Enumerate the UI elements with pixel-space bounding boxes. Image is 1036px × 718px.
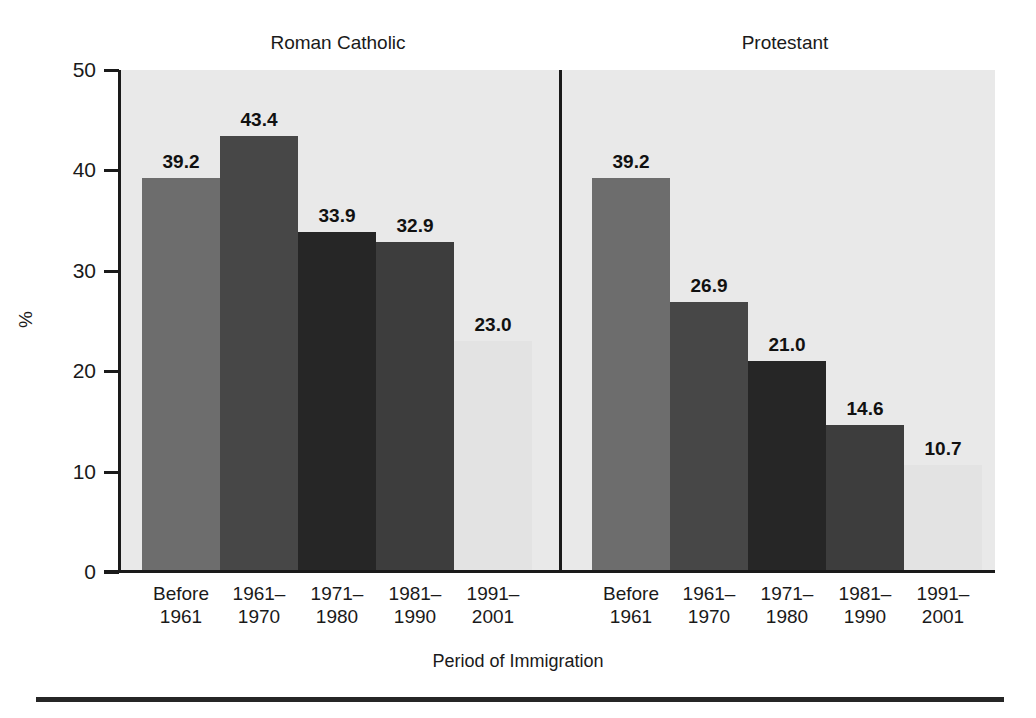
y-axis-tick-label: 50 [34, 59, 96, 80]
panel-title-protestant: Protestant [665, 33, 905, 52]
bar [142, 178, 220, 572]
y-axis-tick [104, 571, 119, 574]
y-axis-tick-label: 10 [34, 461, 96, 482]
bar-value-label: 39.2 [584, 152, 678, 171]
plot-area [121, 70, 995, 572]
panel-protestant [560, 70, 995, 572]
bar-value-label: 14.6 [818, 399, 912, 418]
x-axis-tick-label: 1971– 1980 [742, 582, 832, 628]
bar [592, 178, 670, 572]
bar [298, 232, 376, 572]
y-axis-tick [104, 471, 119, 474]
y-axis-tick-label-wrap: 30 [20, 260, 96, 281]
y-axis-tick-label-wrap: 50 [20, 59, 96, 80]
x-axis-tick-label: 1971– 1980 [292, 582, 382, 628]
bar-value-label: 23.0 [446, 315, 540, 334]
y-axis-tick [104, 69, 119, 72]
y-axis-line [118, 70, 121, 573]
y-axis-tick [104, 370, 119, 373]
y-axis-tick-label: 20 [34, 360, 96, 381]
bar [826, 425, 904, 572]
x-axis-tick-label: 1991– 2001 [898, 582, 988, 628]
bar [454, 341, 532, 572]
y-axis-tick [104, 169, 119, 172]
bar-value-label: 39.2 [134, 152, 228, 171]
x-axis-tick-label: 1981– 1990 [370, 582, 460, 628]
bottom-rule [36, 697, 1004, 702]
y-axis-tick-label-wrap: 20 [20, 360, 96, 381]
bar-value-label: 21.0 [740, 335, 834, 354]
panel-divider [559, 70, 562, 573]
bar [904, 465, 982, 572]
bar-value-label: 43.4 [212, 110, 306, 129]
x-axis-tick-label: 1991– 2001 [448, 582, 538, 628]
bar-value-label: 26.9 [662, 276, 756, 295]
x-axis-title: Period of Immigration [0, 652, 1036, 670]
bar [376, 242, 454, 572]
bar-value-label: 32.9 [368, 216, 462, 235]
x-axis-line [104, 570, 995, 573]
y-axis-tick-label-wrap: 10 [20, 461, 96, 482]
y-axis-tick-label-wrap: 0 [20, 561, 96, 582]
y-axis-tick-label: 40 [34, 159, 96, 180]
bar-value-label: 10.7 [896, 439, 990, 458]
y-axis-tick [104, 270, 119, 273]
x-axis-tick-label: 1981– 1990 [820, 582, 910, 628]
bar [220, 136, 298, 572]
x-axis-tick-label: Before 1961 [586, 582, 676, 628]
x-axis-tick-label: Before 1961 [136, 582, 226, 628]
chart-figure: Roman Catholic Protestant 01020304050 % … [0, 0, 1036, 718]
bar [748, 361, 826, 572]
y-axis-tick-label-wrap: 40 [20, 159, 96, 180]
x-axis-tick-label: 1961– 1970 [664, 582, 754, 628]
x-axis-tick-label: 1961– 1970 [214, 582, 304, 628]
panel-title-roman-catholic: Roman Catholic [178, 33, 498, 52]
y-axis-title: % [16, 290, 35, 350]
bar [670, 302, 748, 572]
y-axis-tick-label: 30 [34, 260, 96, 281]
y-axis-tick-label: 0 [34, 561, 96, 582]
